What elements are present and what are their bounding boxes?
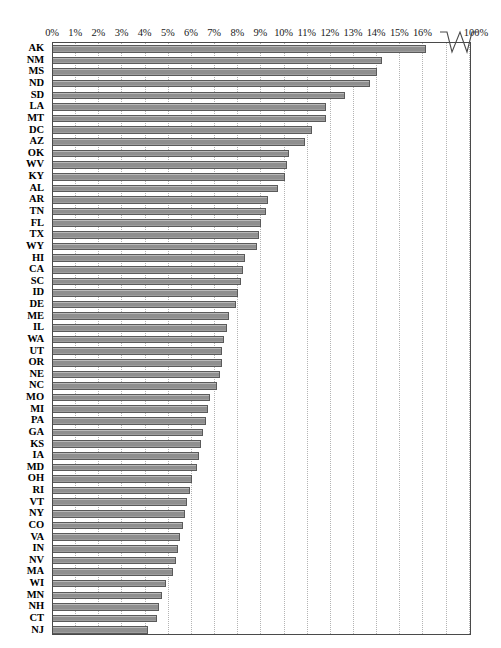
bar: [53, 557, 176, 565]
x-tick-label: 5%: [161, 27, 175, 39]
bar: [53, 161, 287, 169]
x-tick-label: 16%: [413, 27, 432, 39]
bar: [53, 510, 185, 518]
bar: [53, 278, 241, 286]
plot-area: [52, 42, 471, 635]
y-tick-label-nd: ND: [29, 77, 44, 88]
bar: [53, 533, 180, 541]
y-tick-label-dc: DC: [29, 124, 44, 135]
y-tick-label-mn: MN: [27, 589, 44, 600]
bar: [53, 103, 326, 111]
x-tick-label: 7%: [207, 27, 221, 39]
gridline: [399, 43, 401, 634]
y-tick-label-de: DE: [30, 298, 44, 309]
y-tick-label-mt: MT: [27, 112, 44, 123]
y-tick-label-wy: WY: [26, 240, 44, 251]
x-tick-label: 6%: [184, 27, 198, 39]
x-tick-label: 15%: [390, 27, 409, 39]
bar: [53, 254, 245, 262]
horizontal-bar-chart: 0%1%2%3%4%5%6%7%8%9%10%11%12%13%14%15%16…: [0, 0, 501, 648]
bar: [53, 592, 162, 600]
bar: [53, 219, 261, 227]
y-tick-label-wi: WI: [30, 577, 44, 588]
gridline: [446, 43, 448, 634]
y-tick-label-ut: UT: [30, 345, 44, 356]
bar: [53, 615, 157, 623]
y-tick-label-ms: MS: [28, 65, 44, 76]
y-tick-label-or: OR: [28, 356, 44, 367]
gridline: [330, 43, 332, 634]
y-tick-label-sd: SD: [31, 89, 44, 100]
y-tick-label-ky: KY: [28, 170, 44, 181]
bar: [53, 405, 208, 413]
y-tick-label-mi: MI: [30, 403, 44, 414]
bar: [53, 68, 377, 76]
y-tick-label-nv: NV: [29, 554, 44, 565]
bar: [53, 150, 289, 158]
bar: [53, 196, 268, 204]
bar: [53, 266, 243, 274]
bar: [53, 208, 266, 216]
bar: [53, 429, 203, 437]
x-tick-label-100: 100%: [464, 27, 489, 39]
bar: [53, 92, 345, 100]
y-tick-label-ne: NE: [30, 368, 44, 379]
bar: [53, 336, 224, 344]
bar: [53, 452, 199, 460]
y-tick-label-ct: CT: [30, 612, 44, 623]
bar: [53, 359, 222, 367]
y-tick-label-in: IN: [33, 542, 44, 553]
y-axis-state-labels: AKNMMSNDSDLAMTDCAZOKWVKYALARTNFLTXWYHICA…: [0, 42, 48, 635]
x-tick-label: 8%: [230, 27, 244, 39]
y-tick-label-ks: KS: [30, 438, 44, 449]
bar: [53, 626, 148, 634]
y-tick-label-wa: WA: [27, 333, 44, 344]
bar: [53, 231, 259, 239]
y-tick-label-md: MD: [27, 461, 44, 472]
y-tick-label-id: ID: [33, 286, 44, 297]
y-tick-label-sc: SC: [31, 275, 44, 286]
x-tick-label: 12%: [320, 27, 339, 39]
y-tick-label-mo: MO: [26, 391, 44, 402]
y-tick-label-wv: WV: [26, 158, 44, 169]
gridline: [376, 43, 378, 634]
bar: [53, 347, 222, 355]
bar: [53, 289, 238, 297]
y-tick-label-va: VA: [30, 531, 44, 542]
bar: [53, 417, 206, 425]
bar: [53, 173, 285, 181]
bar: [53, 138, 305, 146]
y-tick-label-pa: PA: [31, 414, 44, 425]
y-tick-label-ak: AK: [28, 42, 44, 53]
x-tick-label: 2%: [91, 27, 105, 39]
y-tick-label-ga: GA: [28, 426, 44, 437]
bar: [53, 243, 257, 251]
y-tick-label-hi: HI: [32, 252, 44, 263]
bar: [53, 80, 370, 88]
bar: [53, 185, 278, 193]
x-tick-label: 4%: [138, 27, 152, 39]
bar: [53, 126, 312, 134]
bar: [53, 371, 220, 379]
gridline: [469, 43, 471, 634]
bar: [53, 603, 159, 611]
y-tick-label-az: AZ: [30, 135, 44, 146]
bar: [53, 568, 173, 576]
y-tick-label-ar: AR: [29, 193, 44, 204]
x-tick-label: 11%: [298, 27, 316, 39]
y-tick-label-al: AL: [30, 182, 44, 193]
x-tick-label: 3%: [115, 27, 129, 39]
y-tick-label-ny: NY: [29, 507, 44, 518]
bar: [53, 580, 166, 588]
bar: [53, 301, 236, 309]
y-tick-label-nc: NC: [29, 379, 44, 390]
bar: [53, 312, 229, 320]
y-tick-label-oh: OH: [28, 472, 44, 483]
y-tick-label-ca: CA: [29, 263, 44, 274]
gridline: [422, 43, 424, 634]
y-tick-label-tn: TN: [30, 205, 44, 216]
x-tick-label: 13%: [344, 27, 363, 39]
bar: [53, 498, 187, 506]
y-tick-label-nj: NJ: [31, 624, 44, 635]
bar: [53, 522, 183, 530]
